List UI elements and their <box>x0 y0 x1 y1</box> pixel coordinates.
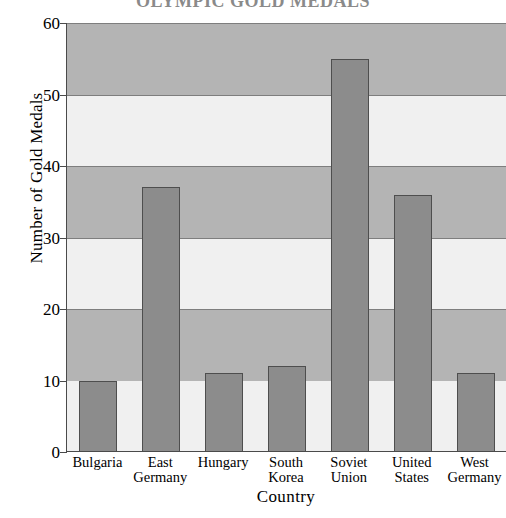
bar[interactable] <box>394 195 432 452</box>
x-axis-line <box>66 451 506 452</box>
x-tick-label: Bulgaria <box>66 455 129 470</box>
x-axis-label: Country <box>66 487 506 507</box>
y-tick-mark <box>60 95 67 96</box>
y-tick-label: 20 <box>14 301 60 318</box>
bar[interactable] <box>79 381 117 453</box>
plot-area <box>66 23 506 452</box>
y-tick-label: 60 <box>14 15 60 32</box>
chart-title: OLYMPIC GOLD MEDALS <box>0 0 506 11</box>
x-tick-label: East Germany <box>129 455 192 485</box>
y-tick-label: 0 <box>14 444 60 461</box>
y-tick-label: 10 <box>14 372 60 389</box>
y-tick-mark <box>60 166 67 167</box>
x-tick-label: Soviet Union <box>317 455 380 485</box>
y-tick-mark <box>60 23 67 24</box>
bar[interactable] <box>268 366 306 452</box>
x-tick-label: United States <box>380 455 443 485</box>
y-tick-mark <box>60 381 67 382</box>
y-tick-mark <box>60 452 67 453</box>
y-tick-mark <box>60 309 67 310</box>
y-tick-mark <box>60 238 67 239</box>
bar[interactable] <box>205 373 243 452</box>
bar-chart: OLYMPIC GOLD MEDALS Number of Gold Medal… <box>0 0 506 518</box>
bar[interactable] <box>331 59 369 452</box>
x-tick-label: West Germany <box>443 455 506 485</box>
x-tick-label: South Korea <box>255 455 318 485</box>
grid-band <box>67 166 506 238</box>
x-tick-label: Hungary <box>192 455 255 470</box>
y-tick-label: 50 <box>14 86 60 103</box>
grid-band <box>67 238 506 310</box>
y-tick-label: 30 <box>14 229 60 246</box>
y-tick-label: 40 <box>14 158 60 175</box>
grid-band <box>67 23 506 95</box>
bar[interactable] <box>142 187 180 452</box>
grid-band <box>67 95 506 167</box>
bar[interactable] <box>457 373 495 452</box>
